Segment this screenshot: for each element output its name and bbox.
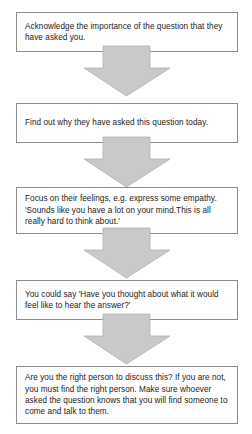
down-arrow-4-svg [0,314,252,366]
down-arrow-icon [0,137,252,189]
flowchart-step-1-label: Acknowledge the importance of the questi… [25,21,230,44]
flowchart-step-3: Focus on their feelings, e.g. express so… [16,187,238,234]
down-arrow-icon [0,228,252,280]
flowchart-step-4-label: You could say 'Have you thought about wh… [25,289,230,312]
down-arrow-3-svg [0,228,252,280]
down-arrow-1-svg [0,46,252,98]
flowchart-step-5: Are you the right person to discuss this… [16,366,238,424]
flowchart-step-5-label: Are you the right person to discuss this… [25,372,230,418]
down-arrow-icon [0,314,252,366]
flowchart-diagram: Acknowledge the importance of the questi… [0,0,252,434]
flowchart-step-2-label: Find out why they have asked this questi… [25,117,230,128]
flowchart-step-3-label: Focus on their feelings, e.g. express so… [25,193,230,227]
down-arrow-icon [0,46,252,98]
down-arrow-2-svg [0,137,252,189]
